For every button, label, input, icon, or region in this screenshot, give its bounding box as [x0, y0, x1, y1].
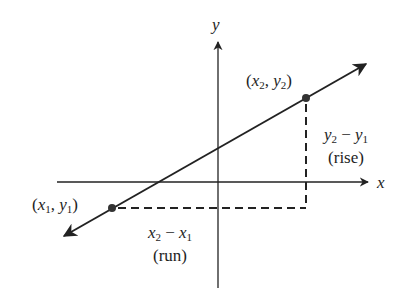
point-2-label: (x2, y2) — [246, 72, 292, 91]
run-label: x2 − x1 (run) — [134, 224, 206, 264]
rise-label: y2 − y1 (rise) — [314, 126, 378, 166]
x-axis-label: x — [377, 174, 385, 191]
point-1-dot — [108, 204, 116, 212]
point-2-dot — [302, 94, 310, 102]
run-caption: (run) — [134, 247, 206, 264]
rise-expression: y2 − y1 — [314, 126, 378, 145]
run-expression: x2 − x1 — [134, 224, 206, 243]
rise-caption: (rise) — [314, 149, 378, 166]
y-axis-label: y — [212, 16, 220, 33]
point-1-label: (x1, y1) — [32, 196, 78, 215]
